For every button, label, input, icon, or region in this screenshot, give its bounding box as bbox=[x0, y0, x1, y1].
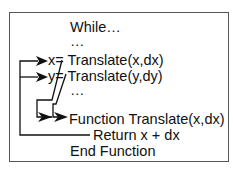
flow-arrows bbox=[0, 0, 233, 169]
return-arrow-x bbox=[20, 61, 90, 135]
call-arrow-x bbox=[37, 60, 62, 117]
call-arrow-y bbox=[53, 74, 66, 117]
